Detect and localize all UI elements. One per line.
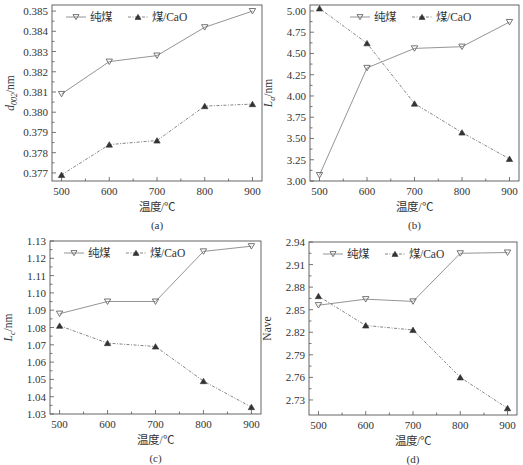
y-tick-label: 1.07 [27, 339, 47, 351]
down-triangle-marker-icon [56, 311, 62, 316]
y-axis-label: Nave [261, 316, 273, 340]
y-tick-label: 1.13 [27, 235, 47, 247]
x-tick-label: 800 [196, 185, 213, 197]
series-coal-cao [316, 6, 512, 162]
up-triangle-marker-icon [504, 405, 510, 410]
x-tick-label: 900 [499, 419, 516, 431]
y-tick-label: 1.09 [27, 304, 47, 316]
legend: 纯煤煤/CaO [323, 248, 444, 260]
y-tick-label: 0.384 [23, 25, 48, 37]
chart-panel-c: 1.031.041.051.061.071.081.091.101.111.12… [2, 235, 261, 465]
x-axis-label: 温度/℃ [137, 433, 174, 446]
x-tick-label: 900 [244, 185, 261, 197]
y-axis-label: La/nm [262, 79, 277, 108]
y-tick-label: 2.91 [286, 259, 305, 271]
series-coal-cao [58, 101, 255, 177]
x-tick-label: 500 [51, 418, 68, 430]
y-tick-label: 2.82 [286, 326, 305, 338]
legend-label-coal-cao: 煤/CaO [409, 248, 444, 260]
panel-label: (a) [151, 219, 164, 232]
x-tick-label: 900 [243, 418, 260, 430]
up-triangle-marker-icon [58, 172, 64, 177]
x-axis-label: 温度/℃ [395, 434, 432, 447]
series-line [62, 11, 253, 94]
x-axis: 500600700800900 [51, 410, 260, 430]
legend: 纯煤煤/CaO [64, 247, 185, 259]
x-tick-label: 600 [99, 418, 116, 430]
up-triangle-marker-icon [316, 6, 322, 11]
y-axis-label-main: Nave [261, 316, 273, 340]
y-axis-label-unit: /nm [2, 314, 14, 332]
x-tick-label: 700 [149, 185, 166, 197]
x-tick-label: 500 [311, 185, 328, 197]
y-tick-label: 5.00 [287, 5, 307, 17]
y-axis-label-unit: /nm [4, 75, 16, 93]
legend-label-pure-coal: 纯煤 [347, 248, 370, 260]
y-axis-label-main: L [262, 101, 274, 108]
y-axis: 0.3770.3780.3790.3800.3810.3820.3830.384… [23, 5, 56, 179]
up-triangle-marker-icon [104, 340, 110, 345]
x-tick-label: 600 [357, 419, 374, 431]
series-line [319, 296, 508, 408]
y-tick-label: 0.383 [23, 46, 48, 58]
legend: 纯煤煤/CaO [350, 11, 471, 23]
y-tick-label: 0.378 [23, 147, 48, 159]
y-tick-label: 4.50 [287, 47, 307, 59]
y-tick-label: 0.377 [23, 167, 48, 179]
y-tick-label: 1.08 [27, 322, 47, 334]
x-tick-label: 800 [452, 419, 469, 431]
y-tick-label: 1.04 [27, 391, 47, 403]
up-triangle-marker-icon [411, 101, 417, 106]
y-tick-label: 3.50 [287, 132, 307, 144]
y-tick-label: 0.380 [23, 106, 48, 118]
y-tick-label: 4.00 [287, 90, 307, 102]
y-tick-label: 2.73 [286, 394, 306, 406]
panel-label: (d) [407, 453, 420, 465]
up-triangle-marker-icon [315, 293, 321, 298]
y-tick-label: 2.76 [286, 371, 306, 383]
x-axis: 500600700800900 [53, 177, 261, 197]
y-tick-label: 0.385 [23, 5, 48, 17]
y-tick-label: 1.10 [27, 287, 47, 299]
legend-label-coal-cao: 煤/CaO [152, 11, 187, 23]
legend-label-pure-coal: 纯煤 [374, 11, 397, 23]
y-axis-label-unit: /nm [262, 79, 274, 97]
up-triangle-marker-icon [506, 156, 512, 161]
plot-frame [50, 241, 261, 414]
x-axis: 500600700800900 [311, 177, 518, 197]
y-tick-label: 2.79 [286, 349, 306, 361]
y-tick-label: 3.25 [287, 154, 307, 166]
up-triangle-marker-icon [364, 40, 370, 45]
x-tick-label: 800 [195, 418, 212, 430]
y-axis-label: Lc/nm [2, 314, 17, 343]
legend-label-pure-coal: 纯煤 [90, 11, 113, 23]
series-coal-cao [315, 293, 510, 411]
y-tick-label: 2.94 [286, 236, 306, 248]
y-tick-label: 2.85 [286, 304, 306, 316]
y-tick-label: 1.05 [27, 373, 47, 385]
x-tick-label: 700 [147, 418, 164, 430]
y-tick-label: 4.25 [287, 69, 307, 81]
series-line [320, 22, 510, 175]
x-tick-label: 900 [501, 185, 518, 197]
y-tick-label: 1.12 [27, 252, 46, 264]
y-tick-label: 0.379 [23, 126, 48, 138]
plot-frame [52, 5, 262, 181]
legend-label-pure-coal: 纯煤 [88, 247, 111, 259]
legend: 纯煤煤/CaO [66, 11, 187, 23]
y-tick-label: 4.75 [287, 26, 307, 38]
down-triangle-marker-icon [316, 172, 322, 177]
up-triangle-marker-icon [457, 375, 463, 380]
legend-label-coal-cao: 煤/CaO [150, 247, 185, 259]
series-line [320, 8, 510, 159]
chart-panel-d: 2.732.762.792.822.852.882.912.9450060070… [261, 236, 517, 465]
x-tick-label: 500 [53, 185, 70, 197]
x-axis-label: 温度/℃ [396, 200, 433, 213]
chart-panel-a: 0.3770.3780.3790.3800.3810.3820.3830.384… [4, 5, 262, 232]
panel-label: (c) [149, 452, 162, 465]
y-tick-label: 0.381 [23, 86, 48, 98]
y-tick-label: 3.75 [287, 111, 307, 123]
x-tick-label: 600 [101, 185, 118, 197]
up-triangle-marker-icon [152, 344, 158, 349]
figure-canvas: 0.3770.3780.3790.3800.3810.3820.3830.384… [0, 0, 523, 465]
